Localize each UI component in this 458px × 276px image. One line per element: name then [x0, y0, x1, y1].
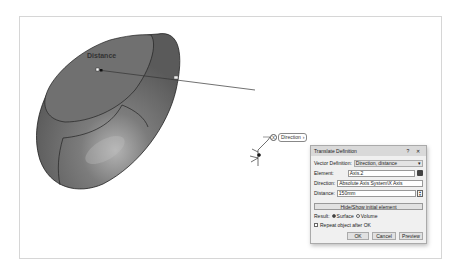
hide-show-initial-element-button[interactable]: Hide/Show initial element — [314, 203, 423, 210]
repeat-label: Repeat object after OK — [320, 222, 371, 228]
volume-radio[interactable] — [356, 214, 360, 218]
direction-tag-box[interactable]: Direction › — [278, 133, 307, 142]
surface-radio[interactable] — [332, 214, 336, 218]
translate-definition-dialog: Translate Definition ? ✕ Vector Definiti… — [310, 145, 427, 244]
result-row: Result: Surface Volume — [314, 212, 423, 220]
direction-row: Direction: Absolute Axis System\X Axis — [314, 179, 423, 187]
dialog-title: Translate Definition — [314, 148, 403, 154]
repeat-checkbox[interactable] — [314, 223, 318, 227]
distance-spinner[interactable]: ▲ ▼ — [417, 190, 423, 197]
ok-button[interactable]: OK — [347, 232, 369, 240]
spin-down-icon[interactable]: ▼ — [418, 194, 422, 197]
volume-radio-label: Volume — [361, 213, 378, 219]
element-row: Element: Axis.2 — [314, 169, 423, 177]
chevron-down-icon: ▾ — [418, 161, 421, 166]
direction-tag-label: Direction — [281, 134, 301, 140]
direction-label: Direction: — [314, 180, 335, 186]
x-axis-badge-icon: x — [270, 134, 277, 141]
element-picker-icon[interactable] — [417, 170, 423, 176]
dialog-buttons: OK Cancel Preview — [347, 232, 423, 240]
surface-radio-label: Surface — [337, 213, 354, 219]
direction-field[interactable]: Absolute Axis System\X Axis — [337, 180, 423, 187]
help-button[interactable]: ? — [403, 148, 413, 154]
distance-label: Distance — [87, 52, 116, 59]
vector-definition-select[interactable]: Direction, distance ▾ — [354, 160, 423, 167]
cancel-button[interactable]: Cancel — [372, 232, 396, 240]
distance-field-label: Distance: — [314, 190, 335, 196]
repeat-row: Repeat object after OK — [314, 221, 423, 229]
axis-triad-icon[interactable] — [250, 137, 270, 166]
chevron-right-icon: › — [303, 134, 305, 140]
dialog-title-bar[interactable]: Translate Definition ? ✕ — [311, 146, 426, 156]
element-field[interactable]: Axis.2 — [348, 170, 415, 177]
manipulator-handle — [174, 76, 178, 79]
vector-definition-label: Vector Definition: — [314, 160, 352, 166]
distance-field[interactable]: 150mm — [337, 190, 416, 197]
distance-row: Distance: 150mm ▲ ▼ — [314, 189, 423, 197]
close-button[interactable]: ✕ — [413, 148, 423, 154]
element-label: Element: — [314, 170, 334, 176]
preview-button[interactable]: Preview — [399, 232, 423, 240]
direction-tag[interactable]: x Direction › — [270, 133, 307, 141]
vector-definition-row: Vector Definition: Direction, distance ▾ — [314, 159, 423, 167]
origin-point — [96, 68, 99, 71]
result-label: Result: — [314, 213, 330, 219]
